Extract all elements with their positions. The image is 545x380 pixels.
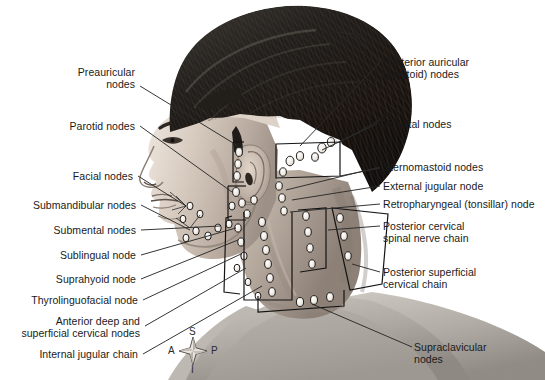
- label-line: Facial nodes: [0, 170, 133, 182]
- label-line: nodes: [414, 353, 487, 365]
- label-line: Posterior auricular: [383, 56, 469, 68]
- leader-thyrolinguofacial: [143, 254, 241, 300]
- retropharyngeal-node: [251, 196, 257, 204]
- compass-label-posterior: P: [211, 345, 218, 356]
- label-line: Thyrolinguofacial node: [0, 294, 138, 306]
- compass-label-anterior: A: [168, 345, 175, 356]
- label-line: superficial cervical nodes: [0, 327, 140, 339]
- lymph-node-figure: Preauricular nodes Parotid nodes Facial …: [0, 0, 545, 380]
- label-occipital-nodes: Occipital nodes: [379, 118, 452, 130]
- label-line: Preauricular: [0, 66, 135, 78]
- label-line: Submandibular nodes: [0, 199, 136, 211]
- label-line: Posterior cervical: [383, 220, 469, 232]
- label-external-jugular-node: External jugular node: [383, 180, 483, 192]
- label-submental-nodes: Submental nodes: [0, 224, 136, 236]
- compass-label-inferior: I: [191, 364, 194, 375]
- label-line: Occipital nodes: [379, 118, 452, 130]
- label-thyrolinguofacial-node: Thyrolinguofacial node: [0, 294, 138, 306]
- label-line: Posterior superficial: [383, 266, 476, 278]
- label-preauricular-nodes: Preauricular nodes: [0, 66, 135, 90]
- label-sternomastoid-nodes: Sternomastoid nodes: [383, 161, 483, 173]
- label-facial-nodes: Facial nodes: [0, 170, 133, 182]
- label-anterior-deep-and-superficial-cervical-nodes: Anterior deep and superficial cervical n…: [0, 315, 140, 339]
- label-line: Retropharyngeal (tonsillar) node: [383, 198, 535, 210]
- label-line: Suprahyoid node: [0, 273, 136, 285]
- label-supraclavicular-nodes: Supraclavicular nodes: [414, 341, 487, 365]
- label-posterior-auricular-mastoid-nodes: Posterior auricular (mastoid) nodes: [383, 56, 469, 80]
- label-line: Sublingual node: [0, 249, 136, 261]
- label-line: Sternomastoid nodes: [383, 161, 483, 173]
- label-posterior-cervical-spinal-nerve-chain: Posterior cervical spinal nerve chain: [383, 220, 469, 244]
- label-line: Anterior deep and: [0, 315, 140, 327]
- label-retropharyngeal-tonsillar-node: Retropharyngeal (tonsillar) node: [383, 198, 535, 210]
- pupil: [171, 138, 175, 142]
- label-submandibular-nodes: Submandibular nodes: [0, 199, 136, 211]
- label-line: Internal jugular chain: [0, 348, 138, 360]
- label-line: cervical chain: [383, 278, 476, 290]
- label-line: (mastoid) nodes: [383, 68, 469, 80]
- label-sublingual-node: Sublingual node: [0, 249, 136, 261]
- label-line: Submental nodes: [0, 224, 136, 236]
- label-parotid-nodes: Parotid nodes: [0, 120, 135, 132]
- label-posterior-superficial-cervical-chain: Posterior superficial cervical chain: [383, 266, 476, 290]
- label-line: Parotid nodes: [0, 120, 135, 132]
- label-suprahyoid-node: Suprahyoid node: [0, 273, 136, 285]
- label-line: External jugular node: [383, 180, 483, 192]
- label-internal-jugular-chain: Internal jugular chain: [0, 348, 138, 360]
- compass-label-superior: S: [189, 326, 196, 337]
- label-line: Supraclavicular: [414, 341, 487, 353]
- label-line: nodes: [0, 78, 135, 90]
- label-line: spinal nerve chain: [383, 232, 469, 244]
